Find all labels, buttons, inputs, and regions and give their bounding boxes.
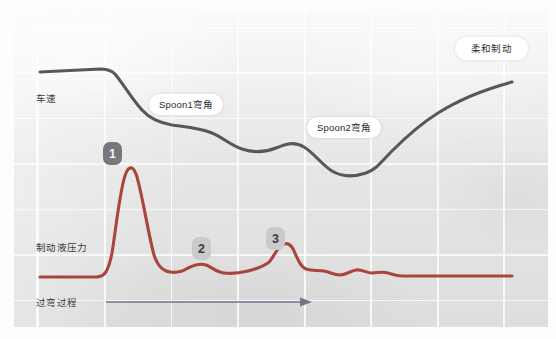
label-speed: 车速 xyxy=(36,91,57,105)
callout-soft-braking: 柔和制动 xyxy=(455,37,528,60)
label-cornering-process: 过弯过程 xyxy=(36,295,77,309)
screenshot-root: 车速 制动液压力 过弯过程 Spoon1弯角 Spoon2弯角 柔和制动 1 2… xyxy=(0,0,556,339)
marker-2: 2 xyxy=(192,237,211,260)
marker-3: 3 xyxy=(266,227,285,250)
marker-1: 1 xyxy=(103,142,122,165)
chart-panel: 车速 制动液压力 过弯过程 Spoon1弯角 Spoon2弯角 柔和制动 1 2… xyxy=(14,9,548,327)
brake-pressure-curve xyxy=(40,168,512,277)
callout-spoon2: Spoon2弯角 xyxy=(307,117,381,138)
label-brake-pressure: 制动液压力 xyxy=(36,240,88,254)
callout-spoon1: Spoon1弯角 xyxy=(149,94,223,115)
process-arrow xyxy=(106,298,312,307)
